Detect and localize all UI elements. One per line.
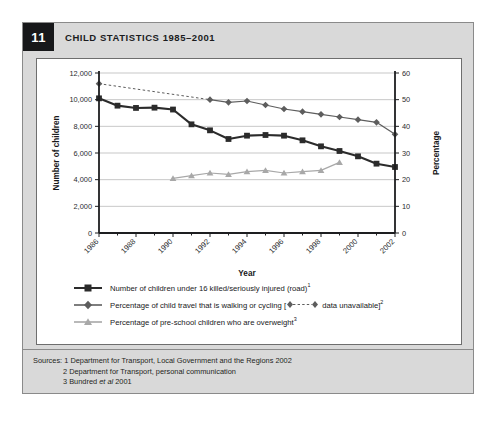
svg-text:2002: 2002: [378, 237, 396, 255]
chart-panel: 02,0004,0006,0008,00010,00012,000 010203…: [36, 58, 462, 345]
svg-text:6,000: 6,000: [74, 149, 93, 158]
legend-item-walking-cycling: Percentage of child travel that is walki…: [73, 296, 458, 313]
source-line-1: Sources: 1 Department for Transport, Loc…: [33, 356, 473, 367]
svg-text:1996: 1996: [267, 237, 285, 255]
svg-text:1986: 1986: [82, 237, 100, 255]
figure-container: 11 CHILD STATISTICS 1985–2001 02,0004,00…: [22, 22, 474, 394]
figure-number-badge: 11: [23, 23, 54, 51]
svg-text:30: 30: [402, 149, 410, 158]
chart-x-axis-title: Year: [238, 269, 256, 278]
svg-text:2,000: 2,000: [74, 202, 93, 211]
chart-legend: Number of children under 16 killed/serio…: [73, 279, 458, 330]
svg-text:2000: 2000: [341, 237, 359, 255]
legend-inline-dashed-marker: [286, 300, 320, 309]
legend-marker-diamond: [73, 299, 103, 311]
chart-x-axis-tick-labels: 198619881990199219941996199820002002: [82, 237, 396, 255]
svg-text:50: 50: [402, 95, 410, 104]
chart-y-axis-tick-labels: 02,0004,0006,0008,00010,00012,000: [69, 69, 92, 238]
svg-text:40: 40: [402, 122, 410, 131]
chart-y2-axis-title: Percentage: [432, 130, 441, 175]
legend-label-road-injuries: Number of children under 16 killed/serio…: [110, 282, 310, 293]
chart-series-layer: [96, 80, 399, 181]
svg-text:60: 60: [402, 69, 410, 78]
svg-text:12,000: 12,000: [69, 69, 92, 78]
figure-title: CHILD STATISTICS 1985–2001: [65, 23, 215, 51]
figure-header-band: 11 CHILD STATISTICS 1985–2001: [23, 23, 473, 51]
legend-item-road-injuries: Number of children under 16 killed/serio…: [73, 279, 458, 296]
svg-text:8,000: 8,000: [74, 122, 93, 131]
chart-y-axis-title: Number of children: [52, 115, 61, 190]
svg-text:20: 20: [402, 175, 410, 184]
chart-y2-axis-tick-labels: 0102030405060: [402, 69, 410, 238]
svg-text:1992: 1992: [193, 237, 211, 255]
svg-text:1988: 1988: [119, 237, 137, 255]
svg-text:0: 0: [402, 229, 406, 238]
svg-text:10,000: 10,000: [69, 95, 92, 104]
svg-text:1990: 1990: [156, 237, 174, 255]
legend-label-overweight: Percentage of pre-school children who ar…: [110, 316, 297, 327]
legend-label-walking-cycling: Percentage of child travel that is walki…: [110, 299, 383, 310]
line-chart-svg: 02,0004,0006,0008,00010,00012,000 010203…: [37, 59, 463, 289]
sources-block: Sources: 1 Department for Transport, Loc…: [23, 349, 473, 393]
source-line-2: 2 Department for Transport, personal com…: [33, 367, 473, 378]
svg-text:0: 0: [88, 229, 92, 238]
svg-text:10: 10: [402, 202, 410, 211]
chart-gridlines: [99, 73, 395, 233]
legend-marker-square: [73, 282, 103, 294]
source-line-3: 3 Bundred et al 2001: [33, 377, 473, 388]
svg-text:1998: 1998: [304, 237, 322, 255]
legend-marker-triangle: [73, 316, 103, 328]
svg-text:4,000: 4,000: [74, 175, 93, 184]
legend-item-overweight: Percentage of pre-school children who ar…: [73, 313, 458, 330]
svg-text:1994: 1994: [230, 237, 248, 255]
